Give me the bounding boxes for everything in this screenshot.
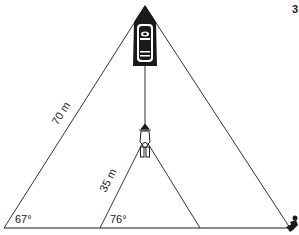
diagram-canvas bbox=[0, 0, 299, 235]
large-triangle-right-side bbox=[145, 6, 290, 228]
angle-67-label: 67° bbox=[15, 214, 32, 225]
boat-icon bbox=[133, 5, 157, 66]
swimmer-icon bbox=[286, 216, 298, 233]
angle-76-label: 76° bbox=[110, 214, 127, 225]
diver-icon bbox=[139, 124, 151, 157]
small-triangle-right-side bbox=[147, 142, 200, 228]
large-triangle-left-side bbox=[4, 6, 145, 228]
diagram: 3 70 m 35 m 67° 76° bbox=[0, 0, 299, 235]
figure-number: 3 bbox=[292, 4, 298, 15]
